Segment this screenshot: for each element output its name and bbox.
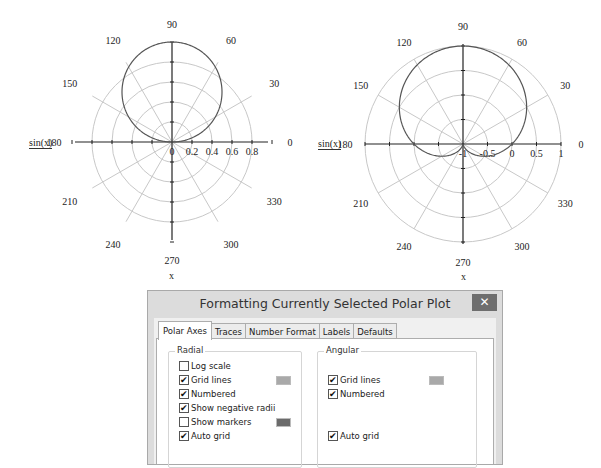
- svg-text:90: 90: [458, 21, 468, 32]
- tab-labels[interactable]: Labels: [319, 323, 354, 339]
- svg-text:1: 1: [559, 148, 564, 159]
- angular-group-label: Angular: [324, 345, 361, 355]
- svg-text:330: 330: [558, 198, 573, 209]
- radial-grid-color-swatch[interactable]: [276, 376, 291, 385]
- polar-plot-2[interactable]: -1-0.500.5103060901201501802102402703003…: [0, 0, 601, 285]
- angular-numbered-checkbox[interactable]: ✔: [328, 389, 338, 399]
- angle-axis-label-2[interactable]: x: [461, 271, 466, 282]
- tab-traces[interactable]: Traces: [211, 323, 246, 339]
- radial-group: Radial Log scale ✔ Grid lines ✔ Numbered…: [168, 351, 302, 468]
- radial-group-label: Radial: [175, 345, 205, 355]
- radial-numbered-checkbox[interactable]: ✔: [179, 389, 189, 399]
- tab-bar: Polar Axes Traces Number Format Labels D…: [158, 321, 396, 339]
- svg-text:240: 240: [397, 241, 412, 252]
- show-markers-checkbox[interactable]: [179, 417, 189, 427]
- angular-numbered-option[interactable]: ✔ Numbered: [328, 388, 385, 400]
- polar-axes-panel: Radial Log scale ✔ Grid lines ✔ Numbered…: [156, 338, 494, 464]
- svg-text:300: 300: [515, 241, 530, 252]
- tab-number-format[interactable]: Number Format: [245, 323, 320, 339]
- radial-grid-lines-option[interactable]: ✔ Grid lines: [179, 374, 231, 386]
- angular-auto-grid-option[interactable]: ✔ Auto grid: [328, 430, 379, 442]
- dialog-title: Formatting Currently Selected Polar Plot: [148, 296, 502, 311]
- radial-grid-lines-checkbox[interactable]: ✔: [179, 375, 189, 385]
- angular-auto-grid-checkbox[interactable]: ✔: [328, 431, 338, 441]
- show-negative-radii-checkbox[interactable]: ✔: [179, 403, 189, 413]
- show-negative-radii-option[interactable]: ✔ Show negative radii: [179, 402, 275, 414]
- svg-text:60: 60: [517, 37, 527, 48]
- svg-text:120: 120: [397, 37, 412, 48]
- angular-grid-lines-checkbox[interactable]: ✔: [328, 375, 338, 385]
- dialog-titlebar[interactable]: Formatting Currently Selected Polar Plot…: [148, 291, 502, 318]
- angular-grid-lines-option[interactable]: ✔ Grid lines: [328, 374, 380, 386]
- svg-text:30: 30: [560, 80, 570, 91]
- svg-text:-0.5: -0.5: [480, 148, 496, 159]
- svg-text:0.5: 0.5: [530, 148, 543, 159]
- radial-auto-grid-checkbox[interactable]: ✔: [179, 431, 189, 441]
- marker-color-swatch[interactable]: [276, 418, 291, 427]
- log-scale-checkbox[interactable]: [179, 361, 189, 371]
- svg-text:150: 150: [353, 80, 368, 91]
- tab-polar-axes[interactable]: Polar Axes: [158, 321, 212, 340]
- angular-group: Angular ✔ Grid lines ✔ Numbered ✔ Auto g…: [317, 351, 477, 468]
- show-markers-option[interactable]: Show markers: [179, 416, 251, 428]
- radial-numbered-option[interactable]: ✔ Numbered: [179, 388, 236, 400]
- trace-label-2[interactable]: sin(x): [318, 138, 341, 150]
- angular-grid-color-swatch[interactable]: [429, 376, 444, 385]
- dialog-client: Polar Axes Traces Number Format Labels D…: [154, 318, 496, 464]
- svg-text:0: 0: [510, 148, 515, 159]
- tab-defaults[interactable]: Defaults: [353, 323, 397, 339]
- close-button[interactable]: ✕: [472, 294, 497, 311]
- svg-text:210: 210: [353, 198, 368, 209]
- svg-text:0: 0: [579, 139, 584, 150]
- format-polar-plot-dialog: Formatting Currently Selected Polar Plot…: [147, 290, 503, 465]
- svg-text:270: 270: [456, 257, 471, 268]
- polar-plot-2-canvas: -1-0.500.5103060901201501802102402703003…: [0, 0, 601, 285]
- radial-auto-grid-option[interactable]: ✔ Auto grid: [179, 430, 230, 442]
- log-scale-option[interactable]: Log scale: [179, 360, 231, 372]
